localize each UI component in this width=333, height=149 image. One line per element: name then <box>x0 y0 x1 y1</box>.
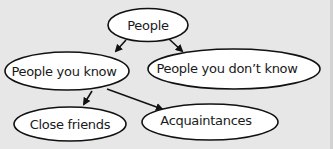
node-people: People <box>108 9 188 42</box>
node-label: Acquaintances <box>160 113 252 128</box>
node-acquaintances: Acquaintances <box>142 104 278 140</box>
edge-people-you-know-to-close-friends <box>84 91 92 104</box>
node-label: People <box>127 18 169 33</box>
node-label: People you don’t know <box>156 61 298 76</box>
edge-people-you-know-to-acquaintances <box>107 89 162 109</box>
node-people-you-know: People you know <box>5 52 129 90</box>
node-label: Close friends <box>30 117 111 132</box>
edge-people-to-people-you-know <box>116 40 126 51</box>
diagram-canvas: People People you know People you don’t … <box>0 0 333 149</box>
node-people-you-dont-know: People you don’t know <box>148 49 320 89</box>
diagram-svg: People People you know People you don’t … <box>0 0 333 149</box>
node-close-friends: Close friends <box>14 107 126 141</box>
edge-people-to-people-you-dont-know <box>169 39 182 51</box>
node-label: People you know <box>11 64 117 79</box>
